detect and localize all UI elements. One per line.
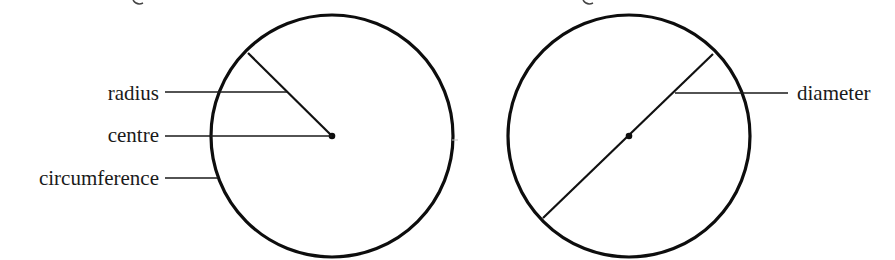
radius-line <box>248 53 332 136</box>
diameter-label: diameter <box>797 81 870 105</box>
radius-label: radius <box>108 81 159 105</box>
left-circle-figure: radius centre circumference <box>39 15 453 257</box>
right-circle-figure: diameter <box>508 15 870 257</box>
circle-parts-diagram: radius centre circumference diameter <box>0 0 895 260</box>
centre-label: centre <box>108 123 159 147</box>
cropped-caption-fragment <box>133 0 593 4</box>
right-centre-point <box>626 133 633 140</box>
circumference-label: circumference <box>39 166 159 190</box>
